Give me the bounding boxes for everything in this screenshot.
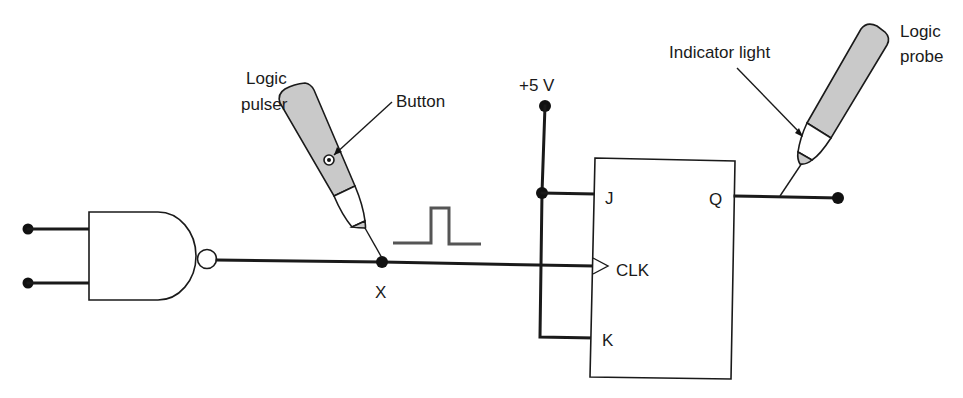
logic-probe-label-line1: Logic <box>900 22 941 41</box>
pulser-body <box>279 83 355 196</box>
nand-inversion-bubble <box>198 250 217 269</box>
logic-pulser <box>279 83 392 258</box>
supply-rail <box>540 106 593 338</box>
nand-input-a <box>23 224 90 235</box>
q-output-wire <box>735 196 838 198</box>
ff-output-q-label: Q <box>709 190 722 209</box>
ff-input-clk-label: CLK <box>616 261 650 280</box>
pulser-tip-wire <box>365 228 382 258</box>
ff-input-k-label: K <box>602 331 614 350</box>
circuit-diagram: X Logic pulser Button +5 V J CLK K Q Ind… <box>0 0 963 398</box>
logic-pulser-label-line2: pulser <box>241 95 288 114</box>
nand-gate <box>89 212 196 300</box>
q-output-terminal <box>832 192 844 204</box>
j-input-wire <box>542 193 594 194</box>
pulser-button-center <box>327 158 331 162</box>
logic-probe-label-line2: probe <box>900 47 943 66</box>
node-x-label: X <box>375 283 386 302</box>
ff-input-j-label: J <box>605 189 614 208</box>
supply-label: +5 V <box>519 76 555 95</box>
pulse-waveform-icon <box>393 208 481 244</box>
indicator-light-label: Indicator light <box>669 43 770 62</box>
logic-pulser-label-line1: Logic <box>246 69 287 88</box>
gate-output-wire <box>217 260 593 266</box>
probe-tip-wire <box>780 163 802 196</box>
indicator-leader-line <box>737 68 801 134</box>
button-leader-line <box>334 102 392 155</box>
probe-body <box>807 24 889 138</box>
nand-input-b <box>23 278 90 289</box>
button-label: Button <box>396 92 445 111</box>
